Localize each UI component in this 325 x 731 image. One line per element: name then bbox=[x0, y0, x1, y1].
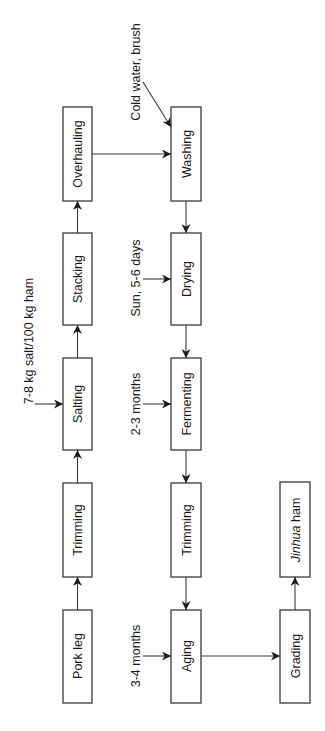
input-drying-label: Sun, 5-6 days bbox=[129, 239, 143, 316]
node-pork-leg: Pork leg bbox=[63, 610, 92, 703]
node-trimming-2-label: Trimming bbox=[180, 504, 194, 556]
node-jinhua-ham-label: Jinhua ham bbox=[289, 498, 303, 564]
node-stacking-label: Stacking bbox=[71, 255, 85, 303]
node-overhauling: Overhauling bbox=[63, 107, 92, 201]
input-fermenting-label: 2-3 months bbox=[129, 373, 143, 436]
node-drying: Drying bbox=[171, 233, 201, 325]
node-salting-label: Salting bbox=[71, 385, 85, 423]
product-name-italic: Jinhua bbox=[289, 525, 303, 563]
flowchart: Overhauling Stacking Salting Trimming Po… bbox=[0, 0, 325, 731]
node-drying-label: Drying bbox=[180, 261, 194, 297]
arrow-cold-water-input bbox=[143, 82, 171, 127]
node-fermenting: Fermenting bbox=[171, 358, 201, 450]
node-jinhua-ham: Jinhua ham bbox=[280, 482, 310, 577]
input-aging-label: 3-4 months bbox=[129, 625, 143, 688]
node-aging: Aging bbox=[171, 610, 201, 703]
product-name-rest: ham bbox=[289, 498, 303, 526]
input-washing-label: Cold water, brush bbox=[129, 23, 143, 120]
node-trimming-2: Trimming bbox=[171, 483, 201, 577]
node-salting: Salting bbox=[63, 358, 92, 450]
node-grading: Grading bbox=[280, 610, 310, 703]
node-overhauling-label: Overhauling bbox=[71, 120, 85, 187]
node-grading-label: Grading bbox=[289, 634, 303, 679]
node-washing-label: Washing bbox=[180, 130, 194, 178]
node-trimming-1: Trimming bbox=[63, 483, 92, 577]
input-salt-label: 7-8 kg salt/100 kg ham bbox=[22, 278, 36, 404]
node-trimming-1-label: Trimming bbox=[71, 504, 85, 556]
node-washing: Washing bbox=[171, 107, 201, 201]
node-pork-leg-label: Pork leg bbox=[71, 633, 85, 679]
node-aging-label: Aging bbox=[180, 640, 194, 672]
node-fermenting-label: Fermenting bbox=[180, 372, 194, 435]
node-stacking: Stacking bbox=[63, 233, 92, 325]
